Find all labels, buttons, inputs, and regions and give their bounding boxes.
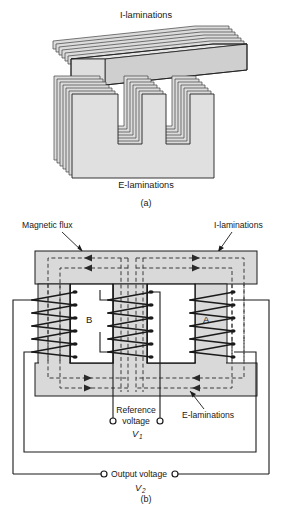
panel-b-e-laminations-label: E-laminations [182,410,234,420]
reference-voltage-label-line1: Reference [116,405,156,415]
e-lamination-stack [54,76,214,178]
panel-b-caption: (b) [141,494,152,504]
panel-a: I-laminations [53,10,247,208]
wire-left-coil-top-to-output-bus [13,300,32,474]
reference-voltage-symbol-group: V 1 [132,428,143,440]
reference-voltage-symbol: V [132,428,139,439]
core-window-right [148,285,195,363]
panel-a-caption: (a) [141,198,152,208]
output-voltage-symbol-group: V 2 [135,482,146,494]
transformer-lamination-figure: I-laminations [0,0,292,505]
output-voltage-subscript: 2 [141,487,146,494]
e-lamination-front-plate [72,94,214,178]
output-voltage-label: Output voltage [111,469,167,479]
panel-a-i-laminations-label: I-laminations [120,10,172,20]
output-voltage-symbol: V [135,482,142,493]
coil-right-turn-dots [230,290,235,358]
terminal-reference-voltage-right[interactable] [157,418,163,424]
terminal-output-voltage-left[interactable] [101,471,107,477]
terminal-output-voltage-right[interactable] [172,471,178,477]
reference-voltage-subscript: 1 [139,433,143,440]
core-bottom-yoke [35,363,257,396]
limb-label-a: A [203,314,210,325]
panel-a-e-laminations-label: E-laminations [118,180,174,190]
limb-label-b: B [86,314,92,325]
panel-b: Magnetic flux I-laminations [13,220,269,504]
magnetic-flux-label: Magnetic flux [22,220,73,230]
panel-b-i-laminations-label: I-laminations [214,220,263,230]
reference-voltage-label-line2: voltage [122,416,150,426]
figure-root: I-laminations [0,0,292,505]
terminal-reference-voltage-left[interactable] [110,418,116,424]
